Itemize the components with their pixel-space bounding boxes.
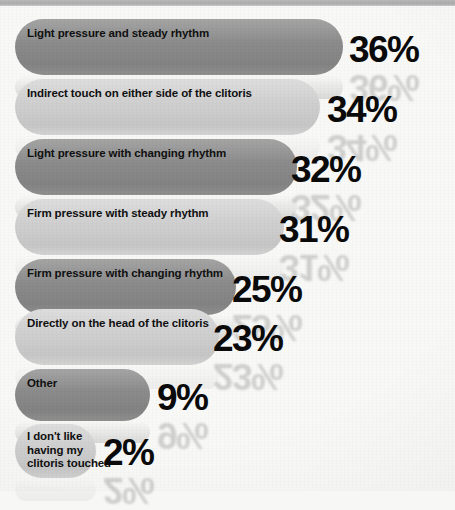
bar-value-label: 34%: [327, 91, 396, 128]
bar-value-label: 9%: [157, 379, 207, 416]
bar-value-label: 25%: [232, 271, 301, 308]
bar-category-label: I don't like having my clitoris touched: [27, 430, 111, 471]
bar-reflection: [15, 478, 96, 501]
bar-value-reflection: 2%: [103, 472, 153, 509]
bar-value-reflection: 9%: [157, 417, 207, 454]
bar-category-label: Light pressure and steady rhythm: [27, 27, 209, 41]
bar-value-label: 31%: [279, 211, 348, 248]
bar-category-label: Other: [27, 377, 57, 391]
bar-category-label: Indirect touch on either side of the cli…: [27, 87, 252, 101]
bar-category-label: Directly on the head of the clitoris: [27, 317, 209, 331]
bar-value-label: 2%: [103, 434, 153, 471]
bar-value-label: 36%: [349, 31, 418, 68]
bar-category-label: Firm pressure with steady rhythm: [27, 207, 209, 221]
bar-value-label: 23%: [213, 320, 282, 357]
bar-category-label: Light pressure with changing rhythm: [27, 147, 226, 161]
bar-value-reflection: 23%: [213, 358, 282, 395]
bar-category-label: Firm pressure with changing rhythm: [27, 267, 223, 281]
bar-value-label: 32%: [291, 151, 360, 188]
